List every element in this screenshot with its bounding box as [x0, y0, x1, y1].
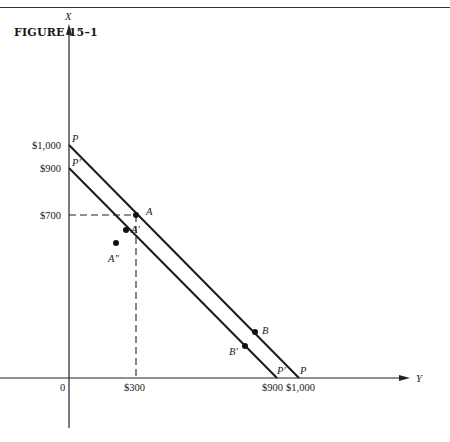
svg-text:A′: A′ — [130, 224, 140, 235]
horizontal-axis-label: Y — [416, 373, 423, 384]
line-P-top-label: P — [71, 133, 79, 144]
svg-text:B′: B′ — [229, 346, 238, 357]
tick-y-1000: $1,000 — [32, 140, 61, 151]
budget-line-P — [69, 145, 299, 378]
line-P-prime-top-label: P′ — [71, 157, 81, 168]
budget-line-chart: X Y 0 $1,000 $900 $700 $300 $900 $1,000 … — [0, 0, 450, 442]
point-B: B — [252, 325, 269, 336]
tick-y-700: $700 — [40, 210, 61, 221]
tick-x-1000: $1,000 — [286, 382, 315, 393]
point-A-double-prime: A″ — [107, 240, 119, 264]
origin-label: 0 — [60, 382, 65, 393]
point-A: A — [133, 206, 153, 218]
tick-y-900: $900 — [40, 163, 61, 174]
horizontal-axis: Y 0 — [0, 373, 423, 393]
arrow-right-icon — [399, 375, 410, 381]
arrow-up-icon — [66, 24, 72, 35]
tick-x-900: $900 — [262, 382, 283, 393]
point-B-prime: B′ — [229, 343, 248, 357]
vertical-axis: X — [64, 11, 72, 428]
line-P-prime-bottom-label: P′ — [276, 365, 286, 376]
tick-x-300: $300 — [124, 382, 145, 393]
line-P-bottom-label: P — [299, 365, 307, 376]
svg-text:A″: A″ — [107, 253, 119, 264]
svg-text:A: A — [145, 206, 153, 217]
vertical-axis-label: X — [64, 11, 72, 22]
svg-text:B: B — [262, 325, 269, 336]
